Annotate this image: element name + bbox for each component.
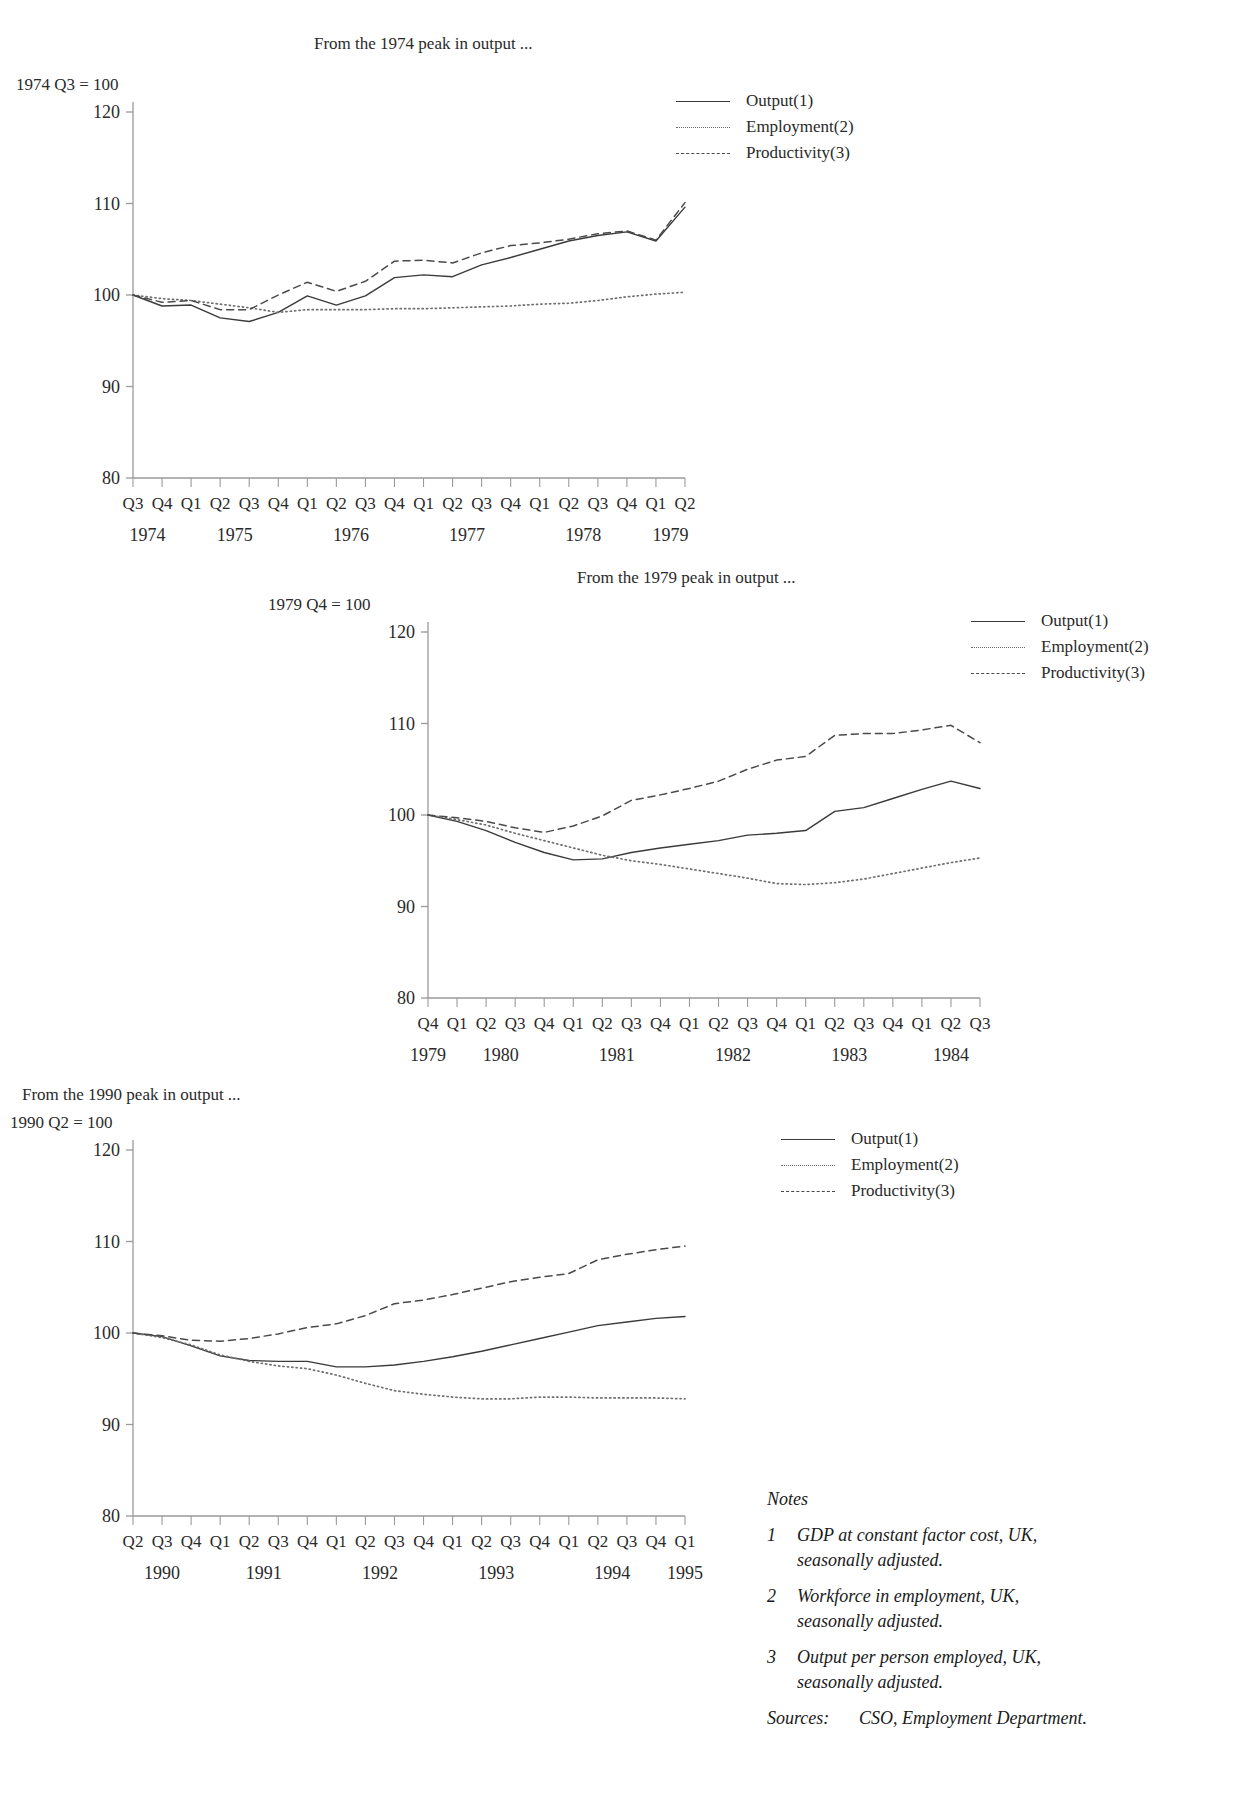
note-text: Workforce in employment, UK, seasonally … <box>797 1584 1087 1635</box>
svg-text:Q1: Q1 <box>413 494 434 513</box>
svg-text:1995: 1995 <box>667 1563 703 1583</box>
svg-text:Q4: Q4 <box>152 494 173 513</box>
svg-text:Q4: Q4 <box>500 494 521 513</box>
legend-item-employment: Employment(2) <box>971 634 1149 660</box>
legend-label-employment: Employment(2) <box>746 117 854 137</box>
svg-text:Q1: Q1 <box>181 494 202 513</box>
svg-text:Q3: Q3 <box>384 1532 405 1551</box>
svg-text:1979: 1979 <box>652 525 688 545</box>
sources-label: Sources: <box>767 1706 859 1732</box>
svg-text:Q4: Q4 <box>413 1532 434 1551</box>
svg-text:1982: 1982 <box>715 1045 751 1065</box>
chart-2-plot: 8090100110120Q4Q1Q2Q3Q4Q1Q2Q3Q4Q1Q2Q3Q4Q… <box>295 610 1055 1080</box>
svg-text:Q3: Q3 <box>471 494 492 513</box>
svg-text:100: 100 <box>93 285 120 305</box>
chart-3-svg: 8090100110120Q2Q3Q4Q1Q2Q3Q4Q1Q2Q3Q4Q1Q2Q… <box>0 1128 760 1598</box>
svg-text:Q2: Q2 <box>941 1014 962 1033</box>
svg-text:Q1: Q1 <box>795 1014 816 1033</box>
svg-text:Q4: Q4 <box>181 1532 202 1551</box>
svg-text:1990: 1990 <box>144 1563 180 1583</box>
legend-label-employment: Employment(2) <box>1041 637 1149 657</box>
svg-text:Q3: Q3 <box>617 1532 638 1551</box>
svg-text:80: 80 <box>102 1506 120 1526</box>
svg-text:Q3: Q3 <box>737 1014 758 1033</box>
svg-text:Q2: Q2 <box>824 1014 845 1033</box>
svg-text:Q2: Q2 <box>558 494 579 513</box>
chart-2-legend: Output(1) Employment(2) Productivity(3) <box>971 608 1149 686</box>
note-number: 3 <box>767 1645 797 1696</box>
svg-text:90: 90 <box>102 377 120 397</box>
svg-text:Q1: Q1 <box>297 494 318 513</box>
svg-text:1976: 1976 <box>333 525 369 545</box>
svg-text:Q4: Q4 <box>418 1014 439 1033</box>
svg-text:Q3: Q3 <box>500 1532 521 1551</box>
svg-text:80: 80 <box>102 468 120 488</box>
svg-text:1993: 1993 <box>478 1563 514 1583</box>
svg-text:Q4: Q4 <box>268 494 289 513</box>
svg-text:Q2: Q2 <box>587 1532 608 1551</box>
svg-text:Q2: Q2 <box>442 494 463 513</box>
svg-text:110: 110 <box>389 714 415 734</box>
note-item: 3 Output per person employed, UK, season… <box>767 1645 1099 1696</box>
legend-label-productivity: Productivity(3) <box>851 1181 955 1201</box>
svg-text:80: 80 <box>397 988 415 1008</box>
note-item: 1 GDP at constant factor cost, UK, seaso… <box>767 1523 1099 1574</box>
note-number: 1 <box>767 1523 797 1574</box>
svg-text:Q1: Q1 <box>679 1014 700 1033</box>
svg-text:Q2: Q2 <box>708 1014 729 1033</box>
legend-item-output: Output(1) <box>781 1126 959 1152</box>
legend-item-productivity: Productivity(3) <box>781 1178 959 1204</box>
legend-label-output: Output(1) <box>1041 611 1108 631</box>
svg-text:Q2: Q2 <box>471 1532 492 1551</box>
legend-label-productivity: Productivity(3) <box>1041 663 1145 683</box>
svg-text:1980: 1980 <box>483 1045 519 1065</box>
svg-text:1991: 1991 <box>246 1563 282 1583</box>
svg-text:110: 110 <box>94 1232 120 1252</box>
sources-text: CSO, Employment Department. <box>859 1706 1099 1732</box>
svg-text:120: 120 <box>388 622 415 642</box>
svg-text:Q3: Q3 <box>621 1014 642 1033</box>
svg-text:1981: 1981 <box>599 1045 635 1065</box>
svg-text:1984: 1984 <box>933 1045 969 1065</box>
svg-text:Q2: Q2 <box>210 494 231 513</box>
svg-text:90: 90 <box>102 1415 120 1435</box>
sources-row: Sources: CSO, Employment Department. <box>767 1706 1099 1732</box>
svg-text:Q1: Q1 <box>326 1532 347 1551</box>
svg-text:1975: 1975 <box>217 525 253 545</box>
svg-text:Q1: Q1 <box>558 1532 579 1551</box>
svg-text:Q3: Q3 <box>355 494 376 513</box>
svg-text:Q4: Q4 <box>534 1014 555 1033</box>
legend-item-output: Output(1) <box>971 608 1149 634</box>
chart-3-plot: 8090100110120Q2Q3Q4Q1Q2Q3Q4Q1Q2Q3Q4Q1Q2Q… <box>0 1128 760 1598</box>
chart-3-caption: From the 1990 peak in output ... <box>22 1085 241 1105</box>
note-text: GDP at constant factor cost, UK, seasona… <box>797 1523 1087 1574</box>
svg-text:120: 120 <box>93 102 120 122</box>
svg-text:1977: 1977 <box>449 525 485 545</box>
svg-text:Q2: Q2 <box>592 1014 613 1033</box>
notes-heading: Notes <box>767 1487 1099 1513</box>
svg-text:Q1: Q1 <box>447 1014 468 1033</box>
svg-text:Q3: Q3 <box>152 1532 173 1551</box>
chart-2-svg: 8090100110120Q4Q1Q2Q3Q4Q1Q2Q3Q4Q1Q2Q3Q4Q… <box>295 610 1055 1080</box>
chart-1-legend: Output(1) Employment(2) Productivity(3) <box>676 88 854 166</box>
svg-text:90: 90 <box>397 897 415 917</box>
svg-text:100: 100 <box>93 1323 120 1343</box>
svg-text:Q4: Q4 <box>297 1532 318 1551</box>
svg-text:100: 100 <box>388 805 415 825</box>
legend-item-output: Output(1) <box>676 88 854 114</box>
legend-label-output: Output(1) <box>851 1129 918 1149</box>
svg-text:1994: 1994 <box>594 1563 630 1583</box>
svg-text:110: 110 <box>94 194 120 214</box>
svg-text:Q4: Q4 <box>882 1014 903 1033</box>
note-text: Output per person employed, UK, seasonal… <box>797 1645 1087 1696</box>
svg-text:Q3: Q3 <box>853 1014 874 1033</box>
legend-item-employment: Employment(2) <box>781 1152 959 1178</box>
legend-item-productivity: Productivity(3) <box>676 140 854 166</box>
svg-text:Q1: Q1 <box>675 1532 696 1551</box>
svg-text:Q2: Q2 <box>675 494 696 513</box>
svg-text:Q1: Q1 <box>442 1532 463 1551</box>
svg-text:Q3: Q3 <box>505 1014 526 1033</box>
svg-text:Q1: Q1 <box>529 494 550 513</box>
svg-text:Q2: Q2 <box>326 494 347 513</box>
legend-label-productivity: Productivity(3) <box>746 143 850 163</box>
